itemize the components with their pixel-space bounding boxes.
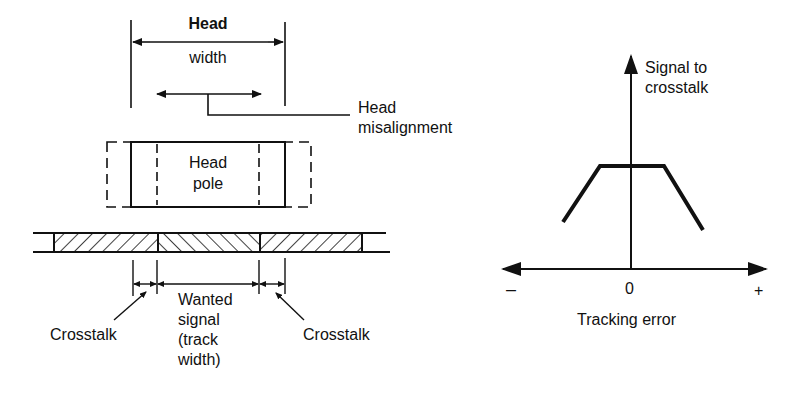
wanted-signal-label-line4: width) bbox=[178, 350, 221, 369]
x-axis-plus-label: + bbox=[754, 281, 763, 300]
head-width-label-bottom: width bbox=[175, 48, 241, 67]
x-axis-minus-label: – bbox=[506, 280, 516, 299]
x-axis-label: Tracking error bbox=[577, 310, 676, 329]
chart-axes bbox=[503, 56, 766, 269]
misalignment-label-line2: misalignment bbox=[358, 118, 452, 137]
misalignment-arrow bbox=[157, 94, 350, 115]
wanted-signal-label-line3: (track bbox=[178, 330, 218, 349]
head-pole-label-line1: Head bbox=[180, 153, 236, 172]
misalignment-label-line1: Head bbox=[358, 98, 396, 117]
x-axis-zero-label: 0 bbox=[625, 279, 634, 298]
tape-tracks bbox=[33, 233, 390, 252]
signal-to-crosstalk-curve bbox=[563, 166, 703, 230]
crosstalk-label-right: Crosstalk bbox=[303, 325, 370, 344]
wanted-signal-label-line1: Wanted bbox=[178, 290, 233, 309]
y-axis-label-line1: Signal to bbox=[645, 58, 707, 77]
crosstalk-label-left: Crosstalk bbox=[50, 325, 117, 344]
head-width-label-top: Head bbox=[180, 14, 236, 33]
y-axis-label-line2: crosstalk bbox=[645, 78, 708, 97]
head-pole-label-line2: pole bbox=[180, 174, 236, 193]
wanted-signal-label-line2: signal bbox=[178, 310, 220, 329]
